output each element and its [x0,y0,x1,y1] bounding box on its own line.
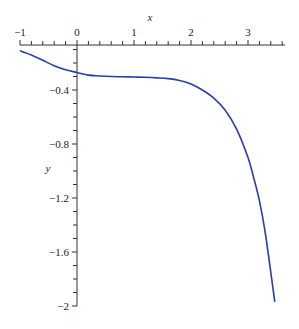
y-axis-title: y [45,162,51,174]
x-tick-label: 1 [131,26,137,38]
x-axis: −10123 [14,26,285,45]
line-chart: −10123 −0.4−0.8−1.2−1.6−2 x y [0,0,299,329]
y-tick-label: −0.8 [49,138,69,150]
x-tick-label: 0 [74,26,80,38]
x-tick-label: 3 [245,26,251,38]
y-tick-label: −1.6 [49,246,69,258]
y-tick-label: −1.2 [49,192,69,204]
y-tick-label: −0.4 [49,84,69,96]
y-axis: −0.4−0.8−1.2−1.6−2 [49,45,77,312]
x-tick-label: 2 [188,26,194,38]
x-tick-label: −1 [14,26,26,38]
x-axis-title: x [147,11,153,23]
y-tick-label: −2 [57,300,69,312]
